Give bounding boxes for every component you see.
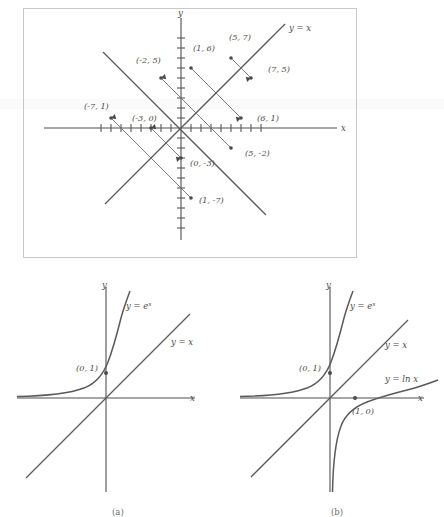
panel-a-y-axis-label: y xyxy=(101,280,107,290)
scan-band xyxy=(0,99,444,109)
label-point-7-5: (7, 5) xyxy=(268,64,290,74)
point-1-6 xyxy=(189,66,193,70)
svg-text:y = ex: y = ex xyxy=(349,300,376,311)
panel-b-label-point-0-1: (0, 1) xyxy=(299,363,321,373)
panel-b-exp-label-exponent: x xyxy=(372,300,376,307)
panel-a-exp-label-base: y = e xyxy=(125,301,148,311)
label-point-neg2-5: (-2, 5) xyxy=(136,55,161,65)
panel-a-exponential-label: y = ex xyxy=(125,300,152,311)
panel-a-caption: (a) xyxy=(112,507,124,517)
point-1-neg7 xyxy=(189,196,193,200)
label-point-1-6: (1, 6) xyxy=(193,43,215,53)
point-7-5 xyxy=(249,76,253,80)
panel-b-y-axis-label: y xyxy=(325,280,331,290)
point-5-neg2 xyxy=(229,146,233,150)
panel-b-exponential-label: y = ex xyxy=(349,300,376,311)
top-y-axis-label: y xyxy=(177,8,183,18)
panel-a-identity-line xyxy=(26,314,190,478)
panel-a-label-point-0-1: (0, 1) xyxy=(76,363,98,373)
panel-b-logarithm-label: y = ln x xyxy=(384,374,418,384)
svg-text:y = ex: y = ex xyxy=(125,300,152,311)
panel-a: x y y = ex y = x (0, 1) (a) xyxy=(17,280,195,517)
point-neg7-1 xyxy=(109,116,113,120)
panel-a-identity-label: y = x xyxy=(170,337,193,347)
panel-b-x-axis-label: x xyxy=(418,393,423,403)
label-point-neg3-0: (-3, 0) xyxy=(132,113,157,123)
point-neg2-5 xyxy=(159,76,163,80)
panel-b-exp-label-base: y = e xyxy=(349,301,372,311)
panel-a-exponential-curve xyxy=(17,291,130,397)
panel-a-exp-label-exponent: x xyxy=(148,300,152,307)
top-panel-frame xyxy=(24,9,357,258)
panel-b-caption: (b) xyxy=(331,507,343,517)
panel-a-x-axis-label: x xyxy=(190,393,195,403)
point-6-1 xyxy=(239,116,243,120)
label-point-0-neg3: (0, -3) xyxy=(190,158,215,168)
top-identity-line-label: y = x xyxy=(288,23,311,33)
point-5-7 xyxy=(229,56,233,60)
top-reflection-guide-line xyxy=(103,52,266,215)
point-0-neg3 xyxy=(179,156,183,160)
panel-a-point-0-1 xyxy=(104,371,108,375)
panel-b-point-0-1 xyxy=(328,371,332,375)
label-point-5-neg2: (5, -2) xyxy=(245,148,270,158)
panel-b-label-point-1-0: (1, 0) xyxy=(352,406,374,416)
panel-b-identity-label: y = x xyxy=(384,340,407,350)
label-point-1-neg7: (1, -7) xyxy=(199,195,224,205)
panel-b: x y y = ex y = x y = ln x (0, 1) (1, 0) … xyxy=(240,280,438,517)
math-figure: x y y = x (1, 6) (5, 7) (-2, 5) (-7, 1) … xyxy=(0,0,444,517)
panel-b-exponential-curve xyxy=(240,291,353,397)
label-point-6-1: (6, 1) xyxy=(257,113,279,123)
label-point-5-7: (5, 7) xyxy=(229,32,251,42)
panel-b-point-1-0 xyxy=(353,396,357,400)
label-point-neg7-1: (-7, 1) xyxy=(84,101,109,111)
top-x-axis-label: x xyxy=(341,123,346,133)
top-panel: x y y = x (1, 6) (5, 7) (-2, 5) (-7, 1) … xyxy=(24,8,357,258)
point-neg3-0 xyxy=(149,126,153,130)
